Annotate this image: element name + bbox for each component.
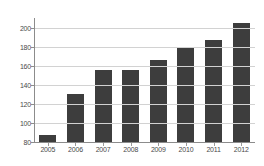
y-axis-tick-mark <box>31 142 34 143</box>
bar <box>122 70 139 142</box>
x-axis-tick-mark <box>48 143 49 146</box>
y-axis-tick-mark <box>31 85 34 86</box>
y-axis-labels: 80100120140160180200 <box>0 0 31 166</box>
y-axis-tick-mark <box>31 104 34 105</box>
y-axis-tick-label: 100 <box>3 120 31 127</box>
y-axis-tick-label: 120 <box>3 101 31 108</box>
y-axis-tick-mark <box>31 47 34 48</box>
x-axis-line <box>34 142 255 143</box>
bar <box>150 60 167 142</box>
x-axis-tick-mark <box>241 143 242 146</box>
y-axis-tick-label: 180 <box>3 44 31 51</box>
bar <box>67 94 84 142</box>
x-axis-tick-mark <box>158 143 159 146</box>
y-axis-tick-mark <box>31 66 34 67</box>
x-axis-tick-label: 2012 <box>224 146 258 154</box>
grid-line <box>34 66 255 67</box>
x-axis-tick-mark <box>131 143 132 146</box>
grid-line <box>34 123 255 124</box>
bar <box>205 40 222 142</box>
plot-area <box>34 18 255 142</box>
y-axis-tick-label: 200 <box>3 25 31 32</box>
x-axis-labels: 20052006200720082009201020112012 <box>34 146 255 162</box>
grid-line <box>34 47 255 48</box>
x-axis-tick-mark <box>75 143 76 146</box>
x-axis-tick-mark <box>214 143 215 146</box>
bar <box>177 47 194 142</box>
bar-chart: 80100120140160180200 2005200620072008200… <box>0 0 264 166</box>
grid-line <box>34 85 255 86</box>
grid-line <box>34 28 255 29</box>
y-axis-tick-label: 160 <box>3 63 31 70</box>
y-axis-tick-label: 140 <box>3 82 31 89</box>
grid-line <box>34 104 255 105</box>
y-axis-tick-label: 80 <box>3 139 31 146</box>
bar <box>233 23 250 142</box>
x-axis-tick-mark <box>186 143 187 146</box>
y-axis-tick-mark <box>31 28 34 29</box>
bar <box>39 135 56 142</box>
x-axis-tick-mark <box>103 143 104 146</box>
y-axis-line <box>34 18 35 143</box>
bar <box>95 70 112 142</box>
y-axis-tick-mark <box>31 123 34 124</box>
